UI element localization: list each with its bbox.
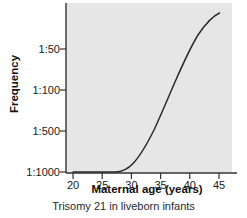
x-axis-title: Maternal age (years)	[56, 183, 238, 195]
y-axis-title: Frequency	[8, 39, 20, 129]
figure-caption: Trisomy 21 in liveborn infants	[0, 200, 247, 212]
figure: 1:50 1:100 1:500 1:1000 20 25 30 35 40 4…	[0, 0, 247, 218]
